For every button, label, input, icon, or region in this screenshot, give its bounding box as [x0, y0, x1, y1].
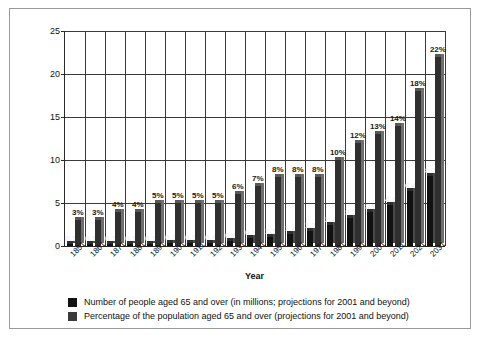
bar-count: 0.6 [227, 241, 233, 246]
bar-percentage: 6% [235, 194, 241, 246]
bar-top [215, 200, 221, 203]
y-axis-tick-label: 0 [55, 242, 60, 251]
bar-percentage: 7% [255, 186, 261, 246]
bar-value-label-percentage: 3% [92, 209, 104, 217]
chart-frame: 05101520250.13%18510.13%18610.14%18710.1… [9, 8, 471, 329]
bar-count: 0.2 [147, 244, 153, 246]
bar-top [395, 123, 401, 126]
bar-value-label-percentage: 4% [112, 201, 124, 209]
bar-percentage: 8% [315, 177, 321, 246]
bar-face [87, 244, 93, 246]
bar-top [255, 183, 261, 186]
bar-side [321, 174, 324, 243]
bar-group: 1.78%1971 [305, 31, 325, 246]
bar-value-label-percentage: 10% [330, 149, 346, 157]
bar-top [95, 217, 101, 220]
bar-count: 0.1 [107, 244, 113, 246]
bar-face [127, 244, 133, 246]
bar-group: 0.97%1941 [245, 31, 265, 246]
bar-top [415, 88, 421, 91]
bar-count: 0.1 [127, 244, 133, 246]
bar-percentage: 13% [375, 134, 381, 246]
bar-group: 3.913%2001 [365, 31, 385, 246]
bar-count: 3.9 [367, 212, 373, 246]
bar-count: 0.9 [247, 238, 253, 246]
bar-value-label-percentage: 18% [410, 80, 426, 88]
bar-value-label-percentage: 8% [272, 166, 284, 174]
bar-face [167, 243, 173, 246]
bar-group: 3.212%1991 [345, 31, 365, 246]
bar-group: 6.418%2021 [405, 31, 425, 246]
x-axis-title: Year [64, 271, 445, 281]
bar-group: 1.18%1951 [265, 31, 285, 246]
bar-side [441, 54, 444, 243]
plot-area: 05101520250.13%18510.13%18610.14%18710.1… [64, 31, 445, 247]
bar-group: 8.122%2031 [425, 31, 445, 246]
bar-count: 0.3 [187, 243, 193, 246]
legend-item-count: Number of people aged 65 and over (in mi… [68, 297, 468, 308]
bar-group: 0.13%1861 [85, 31, 105, 246]
bar-count: 0.1 [67, 244, 73, 246]
bar-group: 0.35%1901 [165, 31, 185, 246]
y-axis-tick-label: 10 [50, 156, 60, 165]
bar-percentage: 22% [435, 57, 441, 246]
bar-side [141, 209, 144, 243]
bar-value-label-percentage: 4% [132, 201, 144, 209]
bar-top [335, 157, 341, 160]
legend-label-count: Number of people aged 65 and over (in mi… [84, 297, 410, 308]
bar-count: 0.4 [207, 243, 213, 246]
bar-top [315, 174, 321, 177]
bar-count: 0.1 [87, 244, 93, 246]
y-axis-tick-label: 25 [50, 27, 60, 36]
y-axis-tickmark [61, 246, 65, 247]
bar-percentage: 10% [335, 160, 341, 246]
bar-percentage: 12% [355, 143, 361, 246]
y-axis-tick-label: 5 [55, 199, 60, 208]
bar-face [207, 243, 213, 246]
bar-count: 1.4 [287, 234, 293, 246]
bar-side [381, 131, 384, 243]
bar-top [195, 200, 201, 203]
bar-group: 0.66%1931 [225, 31, 245, 246]
bar-count: 2.4 [327, 225, 333, 246]
bar-value-label-percentage: 22% [430, 46, 446, 54]
bar-value-label-percentage: 13% [370, 123, 386, 131]
bar-side [421, 88, 424, 243]
bar-value-label-percentage: 6% [232, 183, 244, 191]
bar-side [401, 123, 404, 243]
chart-legend: Number of people aged 65 and over (in mi… [68, 297, 468, 325]
bar-value-label-percentage: 5% [172, 192, 184, 200]
gridline-vertical [445, 31, 446, 246]
bar-side [221, 200, 224, 243]
bar-count: 1.7 [307, 231, 313, 246]
legend-label-percentage: Percentage of the population aged 65 and… [84, 311, 409, 322]
bar-top [275, 174, 281, 177]
bar-count: 8.1 [427, 176, 433, 246]
bar-value-label-percentage: 5% [212, 192, 224, 200]
bar-value-label-percentage: 5% [152, 192, 164, 200]
bar-side [301, 174, 304, 243]
bar-top [235, 191, 241, 194]
bar-side [341, 157, 344, 243]
bar-face [147, 244, 153, 246]
bar-side [121, 209, 124, 243]
bar-top [355, 140, 361, 143]
bar-value-label-percentage: 7% [252, 175, 264, 183]
bar-side [241, 191, 244, 243]
bar-group: 0.14%1881 [125, 31, 145, 246]
bar-group: 0.14%1871 [105, 31, 125, 246]
legend-item-percentage: Percentage of the population aged 65 and… [68, 311, 468, 322]
bar-top [115, 209, 121, 212]
bar-count: 3.2 [347, 218, 353, 246]
bar-group: 0.35%1911 [185, 31, 205, 246]
bar-side [261, 183, 264, 243]
legend-swatch-count-icon [68, 298, 77, 307]
bar-face [107, 244, 113, 246]
y-axis-tick-label: 20 [50, 70, 60, 79]
bar-side [201, 200, 204, 243]
bar-count: 4.8 [387, 205, 393, 246]
bar-top [75, 217, 81, 220]
bar-value-label-percentage: 8% [292, 166, 304, 174]
bar-side [181, 200, 184, 243]
bar-group: 2.410%1981 [325, 31, 345, 246]
